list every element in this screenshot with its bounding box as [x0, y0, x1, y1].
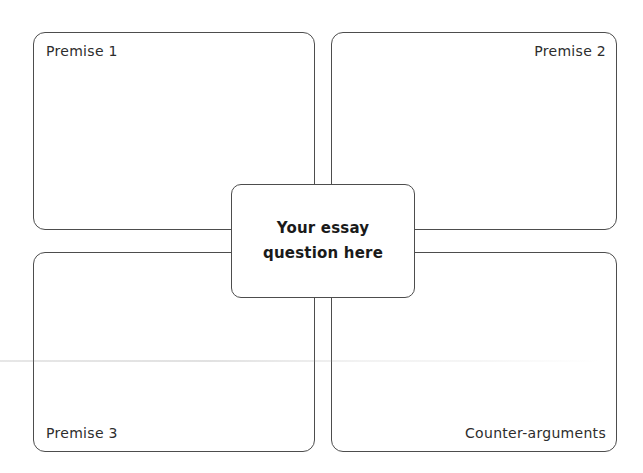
premise-1-label: Premise 1 — [46, 43, 118, 59]
counter-arguments-label: Counter-arguments — [465, 425, 606, 441]
premise-2-label: Premise 2 — [534, 43, 606, 59]
essay-question-box: Your essay question here — [231, 184, 415, 298]
essay-planning-diagram: Premise 1 Premise 2 Premise 3 Counter-ar… — [0, 0, 643, 473]
premise-3-label: Premise 3 — [46, 425, 118, 441]
essay-question-line-2: question here — [263, 241, 383, 266]
essay-question-line-1: Your essay — [263, 216, 383, 241]
essay-question-label: Your essay question here — [263, 216, 383, 266]
